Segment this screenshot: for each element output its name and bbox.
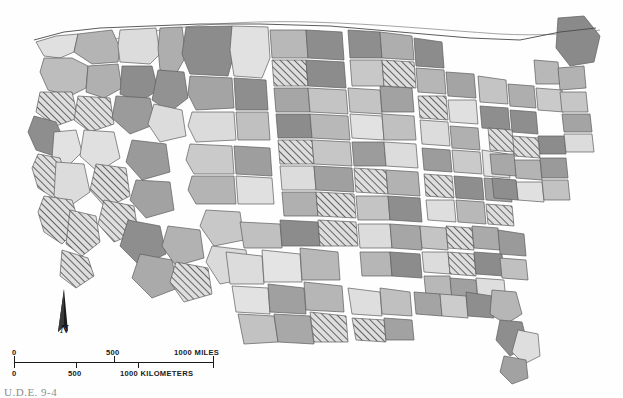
map-region-southeast	[414, 226, 540, 384]
scale-tick-km-500	[76, 362, 77, 368]
scale-label-miles-0: 0	[12, 348, 17, 357]
scale-tick-km-end	[213, 362, 214, 368]
scale-label-miles-1000: 1000 MILES	[174, 348, 219, 357]
scale-label-miles-500: 500	[106, 348, 120, 357]
north-arrow-label: N	[60, 322, 69, 337]
us-choropleth-map	[0, 0, 623, 398]
scale-bar-rule	[14, 362, 214, 363]
scale-label-km-500: 500	[68, 369, 82, 378]
figure-caption: U.D.E. 9-4	[4, 386, 57, 398]
scale-tick-km-1000	[138, 362, 139, 368]
scale-bar-group: 0 500 1000 MILES 0 500 1000 KILOMETERS	[14, 348, 229, 382]
map-figure: N 0 500 1000 MILES 0 500 1000 KILOMETERS…	[0, 0, 623, 398]
scale-label-km-1000: 1000 KILOMETERS	[120, 369, 193, 378]
scale-label-km-0: 0	[12, 369, 17, 378]
scale-tick-km-0	[14, 362, 15, 368]
